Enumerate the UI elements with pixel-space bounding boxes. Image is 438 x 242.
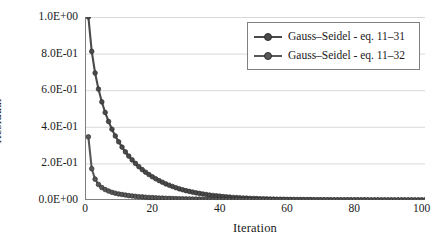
x-axis-tick-label: 60: [281, 203, 293, 215]
y-axis-tick-label: 1.0E+00: [16, 11, 78, 23]
series-marker: [123, 150, 128, 155]
legend-circle-marker-icon: [264, 52, 272, 60]
chart-figure: Residual 1.0E+008.0E-016.0E-014.0E-012.0…: [0, 0, 438, 242]
series-marker: [126, 154, 131, 159]
y-axis-title-text: Residual: [0, 98, 5, 143]
legend-label: Gauss–Seidel - eq. 11–31: [288, 31, 405, 43]
x-axis-tick-label: 0: [82, 203, 88, 215]
series-marker: [113, 134, 118, 139]
series-marker: [110, 127, 115, 132]
y-axis-tick-label: 0.0E+00: [16, 194, 78, 206]
y-axis-tick-label: 8.0E-01: [16, 48, 78, 60]
legend-item[interactable]: Gauss–Seidel - eq. 11–31: [254, 28, 413, 46]
series-marker: [93, 177, 98, 182]
x-axis-tick-label: 80: [349, 203, 361, 215]
x-axis-tick-label: 20: [147, 203, 159, 215]
series-marker: [120, 145, 125, 150]
series-marker: [86, 135, 91, 140]
series-marker: [86, 17, 91, 19]
y-axis-tick-label: 2.0E-01: [16, 157, 78, 169]
x-axis-tick-label: 100: [413, 203, 430, 215]
series-marker: [106, 119, 111, 124]
x-axis-tick-label: 40: [214, 203, 226, 215]
series-marker: [89, 166, 94, 171]
series-marker: [96, 87, 101, 92]
series-marker: [116, 140, 121, 145]
y-axis-tick-labels: 1.0E+008.0E-016.0E-014.0E-012.0E-010.0E+…: [16, 0, 78, 242]
series-marker: [100, 100, 105, 105]
series-marker: [89, 49, 94, 54]
series-marker: [103, 110, 108, 115]
x-axis-title: Iteration: [85, 221, 425, 236]
legend-item[interactable]: Gauss–Seidel - eq. 11–32: [254, 47, 413, 65]
x-axis-tick-labels: 020406080100: [85, 203, 425, 219]
legend-marker-icon: [254, 50, 282, 62]
series-marker: [93, 71, 98, 76]
legend-circle-marker-icon: [264, 33, 272, 41]
chart-legend: Gauss–Seidel - eq. 11–31 Gauss–Seidel - …: [247, 22, 420, 70]
y-axis-tick-label: 4.0E-01: [16, 121, 78, 133]
y-axis-tick-label: 6.0E-01: [16, 84, 78, 96]
legend-label: Gauss–Seidel - eq. 11–32: [288, 50, 405, 62]
legend-marker-icon: [254, 31, 282, 43]
